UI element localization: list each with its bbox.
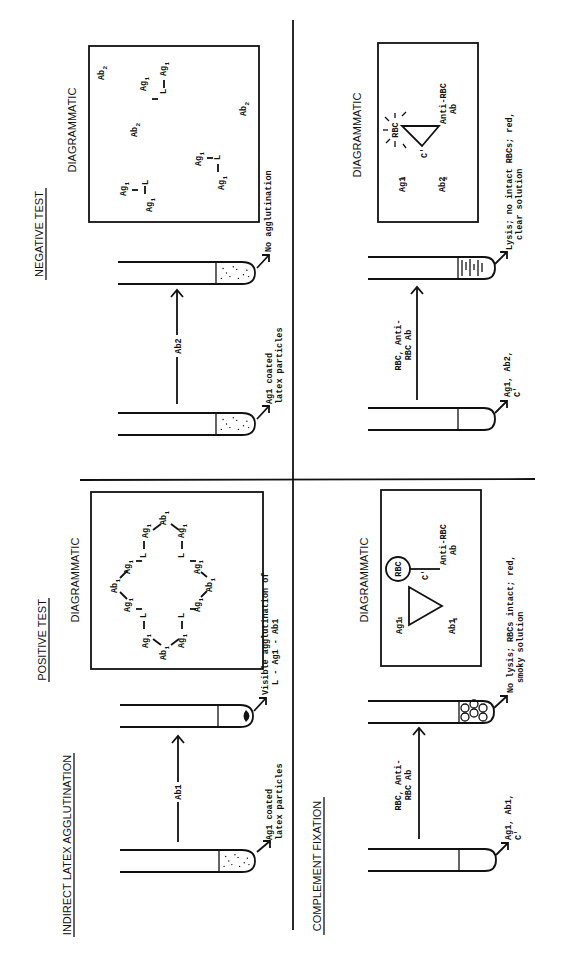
test-tube-start-positive-latex — [120, 850, 255, 872]
svg-text:1: 1 — [182, 524, 189, 528]
test-tube-result-positive-latex — [120, 705, 253, 727]
svg-text:Ab: Ab — [239, 106, 249, 116]
diagram-box-negative-latex — [89, 46, 259, 222]
svg-text:C': C' — [513, 387, 523, 397]
label-result-negative-latex: No agglutination — [264, 170, 274, 252]
antigen-node: Ag1 — [194, 152, 206, 166]
bond-line — [153, 524, 161, 530]
svg-text:Lysis; no intact RBCs; red,: Lysis; no intact RBCs; red, — [505, 112, 515, 250]
svg-text:Anti-RBC: Anti-RBC — [439, 524, 449, 565]
intact-rbc — [461, 713, 469, 721]
svg-text:1: 1 — [146, 634, 153, 638]
svg-text:1: 1 — [164, 511, 171, 515]
antigen-node: Ag1 — [141, 634, 153, 648]
antibody-node: Ab1 — [205, 578, 217, 592]
svg-text:Ag: Ag — [159, 66, 169, 76]
heading-negative-test: NEGATIVE TEST — [33, 188, 46, 280]
test-tube-start-positive-cf — [368, 849, 496, 871]
test-tube-result-negative-latex — [118, 262, 255, 284]
svg-text:1: 1 — [150, 198, 157, 202]
latex-node: L — [159, 89, 169, 94]
svg-text:Ag: Ag — [141, 528, 151, 538]
svg-text:1: 1 — [128, 598, 135, 602]
svg-text:L - Ag1 - Ab1: L - Ag1 - Ab1 — [271, 619, 281, 685]
antigen-node: Ag1 — [145, 198, 157, 212]
svg-text:RBC: RBC — [394, 561, 404, 576]
bond-line — [120, 592, 127, 599]
intact-rbc — [479, 704, 487, 712]
svg-text:1: 1 — [115, 579, 122, 583]
antigen-node: Ag1 — [139, 77, 151, 91]
label-result-positive-latex: Visible agglutination of L - Ag1 - Ab1 — [261, 573, 281, 695]
antigen-node: Ag1 — [177, 524, 189, 538]
latex-particles — [223, 854, 249, 867]
latex-node: L — [139, 613, 149, 618]
label-start-negative-cf: Ag1, Ab2, C' — [503, 351, 523, 397]
reagent-label-positive-latex: Ab1 — [174, 784, 184, 799]
rbc-ab-complement-triangle — [402, 126, 439, 146]
antibody-node: Ab2 — [97, 66, 109, 80]
test-tube-result-positive-cf — [368, 700, 494, 723]
agglutination-lattice: Ab1Ab1Ab1Ab1Ag1Ag1Ag1Ag1Ag1Ag1Ag1Ag1LLLL — [110, 511, 217, 660]
antigen-node: Ag1 — [123, 598, 135, 612]
label-start-positive-cf: Ag1, Ab1, C' — [504, 794, 524, 840]
svg-text:1: 1 — [164, 646, 171, 650]
svg-text:Ag: Ag — [141, 638, 151, 648]
latex-node: L — [139, 553, 149, 558]
svg-text:COMPLEMENT FIXATION: COMPLEMENT FIXATION — [311, 801, 323, 931]
test-tube-result-negative-cf — [368, 257, 495, 279]
svg-text:smoky solution: smoky solution — [516, 612, 526, 683]
complement-bound-diagram: Ag1 1 C' Ab1 1 RBC Anti-RBC Ab — [386, 524, 459, 634]
intact-rbc — [470, 709, 478, 717]
svg-text:Ag: Ag — [193, 602, 203, 612]
svg-text:Ab: Ab — [159, 650, 169, 660]
svg-text:latex particles: latex particles — [275, 327, 285, 404]
svg-text:1: 1 — [210, 578, 217, 582]
svg-text:2: 2 — [135, 123, 142, 127]
svg-text:RBC Ab: RBC Ab — [404, 770, 414, 801]
svg-text:Ab: Ab — [110, 583, 120, 593]
test-tube-start-negative-cf — [368, 408, 495, 430]
svg-text:Ag: Ag — [217, 180, 227, 190]
bond-line — [201, 591, 207, 597]
svg-text:Ab: Ab — [97, 70, 107, 80]
svg-text:1: 1 — [199, 152, 206, 156]
bond-line — [171, 524, 179, 530]
svg-text:Ag: Ag — [194, 156, 204, 166]
label-result-negative-cf: Lysis; no intact RBCs; red, clear soluti… — [505, 112, 525, 250]
svg-text:2: 2 — [442, 176, 449, 180]
immunoassay-figure: POSITIVE TEST NEGATIVE TEST INDIRECT LAT… — [0, 0, 573, 978]
latex-node: L — [177, 553, 187, 558]
svg-text:RBC, Anti-: RBC, Anti- — [394, 759, 404, 810]
label-diagrammatic: DIAGRAMMATIC — [358, 538, 370, 623]
svg-text:Ag1, Ab1,: Ag1, Ab1, — [504, 794, 514, 840]
heading-latex-agglutination: INDIRECT LATEX AGGLUTINATION — [61, 753, 74, 937]
svg-text:1: 1 — [144, 77, 151, 81]
label-diagrammatic: DIAGRAMMATIC — [66, 88, 78, 173]
heading-positive-test: POSITIVE TEST — [36, 598, 49, 682]
svg-text:1: 1 — [128, 560, 135, 564]
test-tube-start-negative-latex — [118, 413, 255, 435]
bond-line — [153, 639, 161, 645]
svg-text:C': C' — [514, 830, 524, 840]
antigen-node: Ag1 — [177, 634, 189, 648]
latex-node: L — [177, 613, 187, 618]
lysed-rbc-diagram: RBC C' Anti-RBC Ab Ag1 1 Ab2 2 — [383, 83, 459, 192]
antibody-node: Ab1 — [110, 579, 122, 593]
latex-particles — [221, 266, 250, 279]
svg-text:Ag1, Ab2,: Ag1, Ab2, — [503, 351, 513, 397]
svg-text:Ag: Ag — [119, 186, 129, 196]
antigen-node: Ag1 — [141, 524, 153, 538]
label-start-negative-latex: Ag1 coated latex particles — [265, 327, 285, 404]
svg-text:Visible agglutination of: Visible agglutination of — [261, 573, 271, 695]
label-diagrammatic: DIAGRAMMATIC — [69, 538, 81, 623]
antigen-node: Ag1 — [119, 182, 131, 196]
svg-text:1: 1 — [182, 634, 189, 638]
svg-text:C': C' — [421, 570, 431, 580]
horizontal-divider — [80, 479, 535, 480]
antigen-node: Ag1 — [217, 176, 229, 190]
latex-node: L — [141, 180, 151, 185]
antibody-node: Ab2 — [130, 123, 142, 137]
svg-text:NEGATIVE TEST: NEGATIVE TEST — [33, 191, 45, 277]
svg-text:RBC, Anti-: RBC, Anti- — [394, 319, 404, 370]
